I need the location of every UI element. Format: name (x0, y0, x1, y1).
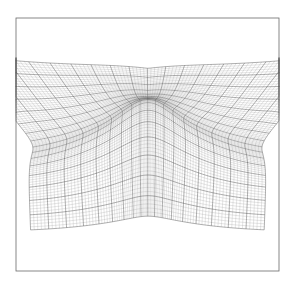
mesh-column-line (16, 58, 40, 230)
mesh-column-line (228, 60, 279, 227)
mesh-column-line (16, 60, 67, 228)
mesh-column-line (153, 67, 162, 216)
mesh-column-line (16, 58, 36, 230)
deformed-mesh-figure (0, 0, 297, 284)
mesh-row-line (16, 57, 279, 68)
mesh-row-line (31, 216, 265, 230)
mesh-column-line (16, 58, 47, 230)
mesh-row-line (30, 114, 264, 161)
mesh-column-line (255, 58, 279, 230)
mesh-column-line (221, 61, 279, 227)
mesh-column-line (16, 58, 33, 230)
mesh-column-line (16, 60, 64, 228)
mesh-row-line (30, 212, 264, 227)
mesh-column-line (79, 64, 117, 221)
mesh-grid-plot (0, 0, 297, 284)
mesh-column-line (248, 58, 279, 230)
mesh-column-line (262, 58, 279, 230)
major-grid-lines (16, 57, 279, 229)
mesh-row-line (29, 148, 265, 183)
mesh-column-line (87, 65, 122, 220)
